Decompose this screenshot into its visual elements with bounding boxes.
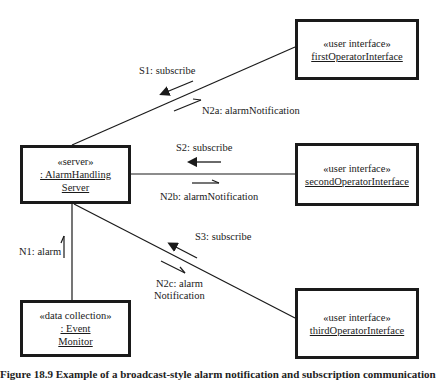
stereotype-label: «user interface» xyxy=(323,162,390,175)
s1-arrow-icon xyxy=(164,81,193,93)
stereotype-label: «user interface» xyxy=(323,37,390,50)
object-name: firstOperatorInterface xyxy=(311,50,403,63)
stereotype-label: «data collection» xyxy=(39,309,111,322)
message-n1-label: N1: alarm xyxy=(19,245,61,258)
n2a-arrow-icon xyxy=(174,100,201,111)
message-n2c-label-line2: Notification xyxy=(154,289,205,302)
message-n2a-label: N2a: alarmNotification xyxy=(202,104,300,117)
object-name-line1: : Event xyxy=(60,322,90,335)
second-operator-interface-object[interactable]: «user interface» secondOperatorInterface xyxy=(295,143,419,206)
message-s2-label: S2: subscribe xyxy=(176,141,232,154)
message-s3-label: S3: subscribe xyxy=(195,230,251,243)
figure-caption: Figure 18.9 Example of a broadcast-style… xyxy=(0,368,437,380)
third-operator-interface-object[interactable]: «user interface» thirdOperatorInterface xyxy=(295,288,419,359)
object-name: thirdOperatorInterface xyxy=(310,324,404,337)
object-name-line2: Server xyxy=(62,181,89,194)
message-s1-label: S1: subscribe xyxy=(139,64,195,77)
event-monitor-object[interactable]: «data collection» : Event Monitor xyxy=(20,300,131,357)
stereotype-label: «user interface» xyxy=(323,311,390,324)
link-server-first xyxy=(72,47,295,145)
stereotype-label: «server» xyxy=(57,155,93,168)
message-n2b-label: N2b: alarmNotification xyxy=(160,190,258,203)
object-name: secondOperatorInterface xyxy=(305,175,409,188)
object-name-line2: Monitor xyxy=(58,335,92,348)
first-operator-interface-object[interactable]: «user interface» firstOperatorInterface xyxy=(295,19,419,80)
object-name-line1: : AlarmHandling xyxy=(40,168,111,181)
n2c-arrow-icon xyxy=(161,261,185,273)
alarm-handling-server-object[interactable]: «server» : AlarmHandling Server xyxy=(20,145,131,204)
